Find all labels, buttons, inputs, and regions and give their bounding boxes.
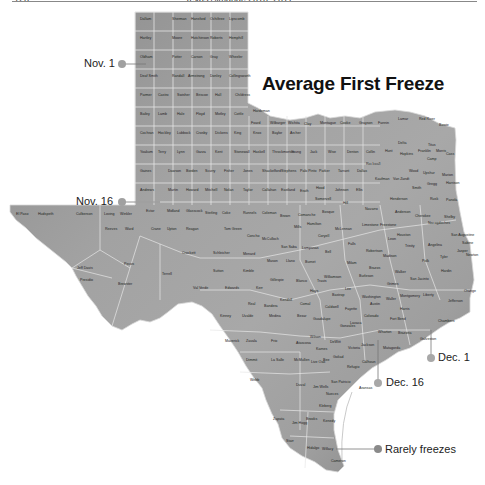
county-label: Taylor (243, 188, 253, 192)
county-label: Val Verde (193, 286, 208, 290)
county-label: Madison (383, 254, 397, 258)
county-label: Galveston (420, 337, 436, 341)
county-label: Red River (419, 117, 436, 121)
county-label: Kenedy (323, 419, 335, 423)
county-label: Lampasas (302, 246, 319, 250)
county-label: Gillespie (270, 278, 284, 282)
county-label: Presidio (80, 278, 93, 282)
county-label: Waller (386, 297, 397, 301)
county-label: Ward (125, 227, 133, 231)
county-label: Duval (296, 383, 305, 387)
county-label: Real (248, 302, 256, 306)
county-label: Trinity (405, 244, 415, 248)
county-label: Bell (325, 250, 331, 254)
county-label: Yoakum (140, 150, 153, 154)
county-label: Deaf Smith (140, 74, 158, 78)
county-label: Johnson (335, 188, 349, 192)
county-label: Titus (428, 143, 436, 147)
county-label: Wheeler (229, 55, 243, 59)
county-label: Bailey (140, 112, 150, 116)
county-label: Atascosa (296, 341, 311, 345)
county-label: Somervell (315, 197, 331, 201)
county-label: Borden (186, 169, 198, 173)
county-label: Limestone (362, 223, 379, 227)
county-label: Upton (167, 227, 177, 231)
county-label: Ochiltree (210, 17, 224, 21)
county-label: Jackson (361, 343, 374, 347)
county-label: Wichita (288, 121, 300, 125)
county-label: Smith (412, 186, 421, 190)
county-label: Archer (290, 131, 301, 135)
county-label: Liberty (423, 293, 434, 297)
county-label: Cochran (140, 131, 154, 135)
county-label: DeWitt (330, 340, 341, 344)
county-label: Lynn (177, 150, 185, 154)
county-label: Robertson (366, 249, 383, 253)
county-label: Dimmit (246, 358, 257, 362)
county-label: Denton (347, 150, 359, 154)
county-label: Hardeman (253, 109, 270, 113)
county-label: Burleson (359, 274, 373, 278)
county-label: Angelina (428, 243, 442, 247)
county-label: Terrell (162, 272, 172, 276)
county-label: Moore (172, 36, 182, 40)
county-label: Lavaca (350, 321, 362, 325)
county-label: Garza (196, 150, 206, 154)
county-label: Brewster (118, 282, 133, 286)
county-label: Stephens (281, 169, 296, 173)
county-label: Hood (316, 186, 325, 190)
county-label: Winkler (120, 212, 133, 216)
county-label: San Jacinto (410, 277, 429, 281)
county-label: Knox (253, 131, 261, 135)
county-label: Karnes (316, 347, 328, 351)
county-label: Lubbock (177, 131, 191, 135)
county-label: Wilbarger (270, 121, 286, 125)
county-label: Wilson (310, 335, 321, 339)
county-label: Hutchinson (191, 36, 209, 40)
county-label: Reeves (105, 227, 117, 231)
county-label: Jefferson (448, 299, 463, 303)
county-label: Hudspeth (38, 212, 53, 216)
county-label: Bee (323, 358, 329, 362)
county-label: Fisher (224, 169, 235, 173)
county-label: Parker (319, 169, 330, 173)
county-label: Tarrant (338, 169, 349, 173)
map-title: Average First Freeze (262, 73, 444, 95)
county-label: Reagan (186, 227, 199, 231)
county-label: Webb (250, 378, 259, 382)
county-label: Van Zandt (393, 177, 409, 181)
county-label: Frio (271, 339, 277, 343)
county-label: Falls (348, 242, 356, 246)
county-label: Hall (215, 93, 221, 97)
county-label: Cherokee (415, 214, 431, 218)
county-label: Colorado (364, 314, 379, 318)
county-label: La Salle (271, 358, 284, 362)
county-label: Oldham (140, 55, 153, 59)
county-label: Young (291, 150, 301, 154)
county-label: Brooks (306, 417, 317, 421)
county-label: Foard (251, 121, 260, 125)
county-label: Austin (370, 302, 380, 306)
county-label: Baylor (272, 131, 283, 135)
county-label: Guadalupe (313, 317, 331, 321)
county-label: Grayson (359, 121, 373, 125)
county-label: Scurry (205, 169, 216, 173)
county-label: Eastland (281, 188, 295, 192)
county-label: El Paso (16, 212, 28, 216)
county-label: Kaufman (375, 177, 389, 181)
county-label: Marion (442, 173, 453, 177)
legend-label-nov-16: Nov. 16 (76, 195, 113, 207)
county-label: Kerr (256, 286, 264, 290)
county-label: Aransas (359, 386, 372, 390)
county-label: Shackelford (262, 169, 281, 173)
county-label: Freestone (380, 223, 396, 227)
county-label: Roberts (210, 36, 223, 40)
county-label: Harris (400, 307, 410, 311)
county-label: Shelby (444, 215, 455, 219)
county-label: Motley (215, 112, 226, 116)
county-label: Coryell (318, 234, 329, 238)
county-label: McCulloch (262, 237, 279, 241)
county-label: Hartley (140, 36, 152, 40)
county-label: Walker (395, 270, 407, 274)
county-label: Palo Pinto (300, 169, 316, 173)
